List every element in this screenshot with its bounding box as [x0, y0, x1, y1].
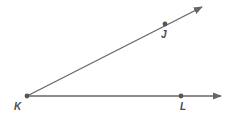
label-l: L [180, 101, 186, 112]
label-k: K [14, 101, 22, 112]
point-l [179, 94, 184, 99]
point-k [25, 94, 30, 99]
point-j [163, 22, 168, 27]
ray-kj [27, 7, 202, 96]
label-j: J [161, 29, 167, 40]
angle-diagram: K J L [0, 0, 234, 117]
